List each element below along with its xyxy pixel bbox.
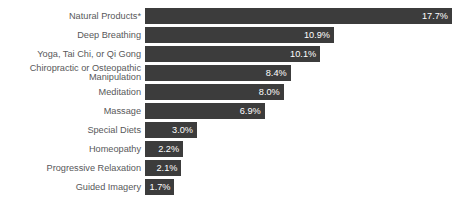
bar-value-label: 8.4% (266, 68, 287, 78)
bar-track: 8.4% (145, 65, 455, 81)
category-label: Meditation (0, 87, 145, 97)
bar-fill: 10.9% (145, 27, 334, 43)
bar-row: Massage6.9% (0, 103, 455, 119)
category-label: Massage (0, 106, 145, 116)
bar-track: 10.9% (145, 27, 455, 43)
bar-row: Progressive Relaxation2.1% (0, 160, 455, 176)
bar-value-label: 2.1% (156, 163, 177, 173)
bar-row: Natural Products*17.7% (0, 8, 455, 24)
bar-fill: 1.7% (145, 179, 174, 195)
bar-value-label: 8.0% (259, 87, 280, 97)
category-label: Yoga, Tai Chi, or Qi Gong (0, 49, 145, 59)
bar-row: Homeopathy2.2% (0, 141, 455, 157)
bar-fill: 8.0% (145, 84, 284, 100)
category-label: Chiropractic or Osteopathic Manipulation (0, 64, 145, 83)
bar-fill: 2.1% (145, 160, 181, 176)
bar-value-label: 3.0% (172, 125, 193, 135)
bar-fill: 3.0% (145, 122, 197, 138)
bar-track: 10.1% (145, 46, 455, 62)
bar-value-label: 2.2% (158, 144, 179, 154)
category-label: Natural Products* (0, 11, 145, 21)
bar-row: Yoga, Tai Chi, or Qi Gong10.1% (0, 46, 455, 62)
bar-track: 6.9% (145, 103, 455, 119)
bar-fill: 8.4% (145, 65, 291, 81)
category-label: Deep Breathing (0, 30, 145, 40)
bar-chart: Natural Products*17.7%Deep Breathing10.9… (0, 0, 455, 216)
bar-value-label: 6.9% (240, 106, 261, 116)
bar-track: 8.0% (145, 84, 455, 100)
bar-track: 2.1% (145, 160, 455, 176)
bar-track: 17.7% (145, 8, 455, 24)
bar-value-label: 1.7% (150, 182, 171, 192)
bar-track: 3.0% (145, 122, 455, 138)
category-label: Progressive Relaxation (0, 163, 145, 173)
bar-fill: 2.2% (145, 141, 183, 157)
bar-row: Meditation8.0% (0, 84, 455, 100)
bar-row: Chiropractic or Osteopathic Manipulation… (0, 65, 455, 81)
bar-value-label: 10.9% (304, 30, 330, 40)
category-label: Special Diets (0, 125, 145, 135)
category-label: Guided Imagery (0, 182, 145, 192)
bar-row: Guided Imagery1.7% (0, 179, 455, 195)
bar-row: Special Diets3.0% (0, 122, 455, 138)
bar-fill: 17.7% (145, 8, 452, 24)
bar-row: Deep Breathing10.9% (0, 27, 455, 43)
bar-track: 1.7% (145, 179, 455, 195)
bar-track: 2.2% (145, 141, 455, 157)
bar-value-label: 10.1% (290, 49, 316, 59)
bar-value-label: 17.7% (422, 11, 448, 21)
bar-fill: 6.9% (145, 103, 265, 119)
bar-fill: 10.1% (145, 46, 320, 62)
category-label: Homeopathy (0, 144, 145, 154)
